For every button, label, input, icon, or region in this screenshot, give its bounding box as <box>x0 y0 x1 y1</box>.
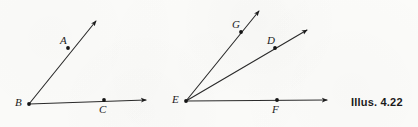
point-label-e: E <box>172 94 179 105</box>
point-dot-c <box>102 98 106 102</box>
point-dot-a <box>66 46 70 50</box>
point-dot-b <box>27 102 31 106</box>
point-label-d: D <box>267 35 275 46</box>
point-label-a: A <box>60 35 67 46</box>
point-dot-g <box>239 30 243 34</box>
point-dot-f <box>275 98 279 102</box>
point-label-b: B <box>15 97 22 108</box>
point-dot-d <box>273 46 277 50</box>
point-label-c: C <box>99 104 106 115</box>
rays-layer <box>29 11 327 104</box>
ray-bc <box>29 100 146 104</box>
point-label-g: G <box>232 19 240 30</box>
ray-eg <box>186 11 259 101</box>
ray-ed <box>186 30 307 101</box>
illustration-figure: ABCGDEF Illus. 4.22 <box>0 0 418 127</box>
point-label-f: F <box>272 104 279 115</box>
point-dot-e <box>184 99 188 103</box>
figure-caption: Illus. 4.22 <box>351 96 403 108</box>
ray-ef <box>186 100 327 101</box>
